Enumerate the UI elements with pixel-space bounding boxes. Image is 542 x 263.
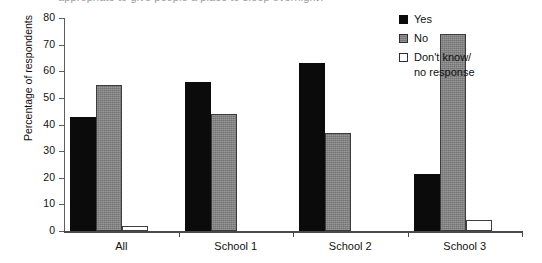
legend-label-yes: Yes: [414, 12, 432, 27]
x-tick: [293, 231, 294, 237]
y-tick: 0: [59, 231, 64, 232]
legend-swatch-no-icon: [399, 34, 408, 43]
legend-label-dont-know: Don't know/ no response: [414, 50, 475, 80]
bar-yes: [185, 82, 211, 231]
x-tick: [179, 231, 180, 237]
bar-group: [179, 18, 294, 231]
legend-item: No: [399, 31, 475, 46]
bar-don-t-know-no-response: [122, 226, 148, 231]
y-tick-label: 0: [49, 224, 55, 236]
y-tick-label: 10: [43, 197, 55, 209]
clipped-title-text: appropriate to give people a place to sl…: [0, 0, 542, 3]
bar-no: [325, 133, 351, 232]
y-axis-title: Percentage of respondents: [22, 0, 34, 168]
y-tick-label: 50: [43, 91, 55, 103]
legend-item: Don't know/ no response: [399, 50, 475, 80]
bar-don-t-know-no-response: [466, 220, 492, 231]
x-category-label: School 1: [176, 240, 296, 252]
x-category-label: School 3: [405, 240, 525, 252]
bar-group: [64, 18, 179, 231]
legend-label-no: No: [414, 31, 428, 46]
legend-swatch-dont-know-icon: [399, 53, 408, 62]
y-tick-label: 80: [43, 11, 55, 23]
y-tick-label: 30: [43, 144, 55, 156]
x-category-label: All: [61, 240, 181, 252]
bar-group: [293, 18, 408, 231]
legend: Yes No Don't know/ no response: [399, 12, 475, 84]
bar-no: [96, 85, 122, 231]
y-tick-label: 20: [43, 171, 55, 183]
y-tick-label: 40: [43, 118, 55, 130]
y-tick-label: 60: [43, 64, 55, 76]
clipped-title-sliver: appropriate to give people a place to sl…: [0, 0, 542, 5]
legend-item: Yes: [399, 12, 475, 27]
bar-yes: [414, 174, 440, 231]
bar-chart-figure: appropriate to give people a place to sl…: [0, 0, 542, 263]
x-tick: [408, 231, 409, 237]
x-category-label: School 2: [290, 240, 410, 252]
bar-no: [211, 114, 237, 231]
bar-yes: [299, 63, 325, 231]
y-tick-label: 70: [43, 38, 55, 50]
x-tick: [522, 231, 523, 237]
legend-swatch-yes-icon: [399, 15, 408, 24]
bar-yes: [70, 117, 96, 231]
